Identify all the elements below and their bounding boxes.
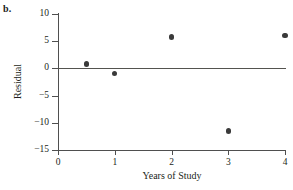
data-point: [169, 34, 174, 39]
y-axis-title: Residual: [12, 37, 23, 127]
x-axis-tick-label: 0: [43, 157, 73, 167]
residual-scatter-figure: b. 1050−5−10−15 01234 Years of Study Res…: [0, 0, 293, 190]
data-point: [282, 33, 287, 38]
x-axis-tick-label: 1: [100, 157, 130, 167]
x-axis-tick-label: 4: [270, 157, 293, 167]
x-axis-tick-label: 2: [157, 157, 187, 167]
data-point: [84, 61, 89, 66]
data-point: [226, 128, 231, 133]
y-axis-tick-label: 10: [9, 9, 49, 19]
x-axis-tick-label: 3: [213, 157, 243, 167]
x-axis-tick: [172, 150, 173, 155]
x-axis-tick: [285, 150, 286, 155]
x-axis-tick: [115, 150, 116, 155]
x-axis-tick: [58, 150, 59, 155]
x-axis-title: Years of Study: [58, 170, 286, 182]
y-axis-tick-label: −15: [9, 145, 49, 155]
x-axis-tick: [228, 150, 229, 155]
